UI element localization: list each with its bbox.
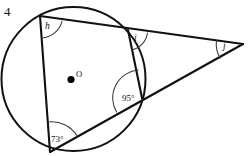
angle-label-j: j	[221, 41, 226, 51]
problem-number-label: 4	[4, 4, 11, 19]
center-label: O	[76, 69, 82, 79]
center-point-dot	[67, 76, 74, 83]
angle-label-95: 95°	[122, 93, 135, 103]
segment-top-secant	[40, 16, 243, 44]
angle-label-73: 73°	[51, 134, 64, 144]
angle-label-i: i	[134, 33, 137, 43]
geometry-canvas: 4 O h i j 95° 73°	[0, 0, 249, 156]
geometry-figure: 4 O h i j 95° 73°	[0, 0, 249, 156]
angle-arc-95	[113, 70, 139, 113]
angle-label-h: h	[45, 21, 50, 31]
segment-bottom-secant	[50, 44, 243, 152]
